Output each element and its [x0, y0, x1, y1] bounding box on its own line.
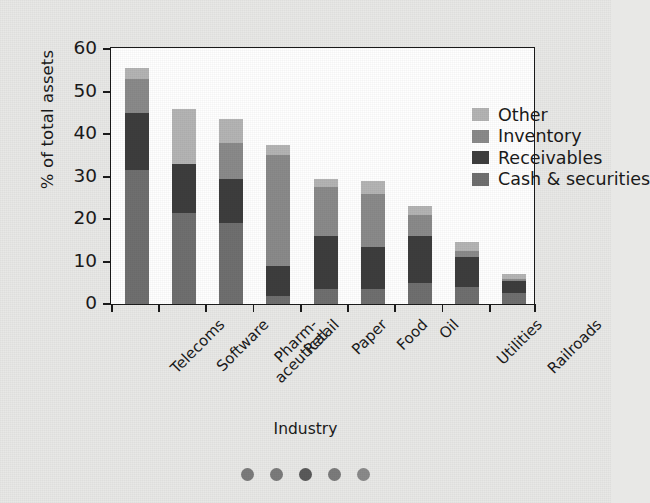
- bar-segment: [455, 251, 479, 257]
- decorative-dot: [357, 468, 370, 481]
- bar-segment: [125, 113, 149, 170]
- decorative-dot: [270, 468, 283, 481]
- bar-software: [172, 109, 196, 305]
- bar-segment: [314, 187, 338, 236]
- bar-segment: [125, 79, 149, 113]
- y-tick-mark: [103, 261, 111, 263]
- bar-segment: [502, 279, 526, 281]
- bar-segment: [172, 213, 196, 304]
- bar-segment: [172, 109, 196, 164]
- bar-segment: [502, 293, 526, 304]
- legend-swatch: [472, 151, 489, 164]
- y-tick-mark: [103, 176, 111, 178]
- chart-legend: OtherInventoryReceivablesCash & securiti…: [472, 104, 650, 190]
- x-category-label: Food: [394, 317, 430, 353]
- bar-segment: [314, 179, 338, 188]
- y-tick-mark: [103, 303, 111, 305]
- bar-segment: [502, 274, 526, 278]
- x-axis-tick: [111, 304, 113, 312]
- bar-segment: [219, 179, 243, 224]
- legend-swatch: [472, 130, 489, 143]
- legend-item-other: Other: [472, 104, 650, 126]
- y-tick-label: 50: [37, 80, 97, 101]
- y-tick-label: 0: [37, 292, 97, 313]
- x-axis-tick: [205, 304, 207, 312]
- bar-food: [361, 181, 385, 304]
- x-axis-tick: [534, 304, 536, 312]
- decorative-dots: [0, 468, 611, 481]
- bar-segment: [408, 206, 432, 215]
- bar-segment: [125, 68, 149, 79]
- y-tick-mark: [103, 133, 111, 135]
- y-tick-mark: [103, 91, 111, 93]
- bar-paper: [314, 179, 338, 304]
- bar-utilities: [455, 242, 479, 304]
- x-axis-tick: [253, 304, 255, 312]
- bar-segment: [361, 194, 385, 247]
- x-category-label-line1: Utilities: [493, 316, 546, 369]
- x-category-label-line1: Food: [393, 316, 431, 354]
- x-category-label-line1: Paper: [348, 316, 391, 359]
- y-tick-label: 60: [37, 37, 97, 58]
- bar-segment: [361, 289, 385, 304]
- legend-label: Cash & securities: [498, 169, 650, 189]
- decorative-dot: [328, 468, 341, 481]
- bar-segment: [361, 247, 385, 290]
- y-tick-mark: [103, 48, 111, 50]
- bar-segment: [219, 223, 243, 304]
- x-axis-tick: [158, 304, 160, 312]
- x-axis-tick: [442, 304, 444, 312]
- bar-segment: [455, 242, 479, 251]
- decorative-dot: [299, 468, 312, 481]
- legend-label: Receivables: [498, 148, 602, 168]
- legend-swatch: [472, 108, 489, 121]
- legend-swatch: [472, 173, 489, 186]
- x-category-label-line1: Oil: [435, 316, 462, 343]
- bar-segment: [455, 287, 479, 304]
- y-tick-label: 20: [37, 207, 97, 228]
- bar-segment: [172, 164, 196, 213]
- y-tick-label: 40: [37, 122, 97, 143]
- bar-railroads: [502, 274, 526, 304]
- bar-segment: [266, 145, 290, 156]
- x-category-label: Railroads: [546, 317, 606, 377]
- bar-segment: [408, 236, 432, 283]
- x-axis-tick: [489, 304, 491, 312]
- legend-item-receivables: Receivables: [472, 147, 650, 169]
- legend-label: Other: [498, 105, 548, 125]
- x-category-label: Utilities: [495, 317, 546, 368]
- bar-segment: [408, 283, 432, 304]
- bar-segment: [455, 257, 479, 287]
- legend-label: Inventory: [498, 126, 582, 146]
- x-axis-tick: [394, 304, 396, 312]
- bar-oil: [408, 206, 432, 304]
- x-axis-title: Industry: [0, 420, 611, 438]
- bar-segment: [314, 236, 338, 289]
- bar-segment: [266, 266, 290, 296]
- x-axis-tick: [300, 304, 302, 312]
- bar-telecoms: [125, 68, 149, 304]
- y-tick-mark: [103, 218, 111, 220]
- decorative-dot: [241, 468, 254, 481]
- bar-segment: [361, 181, 385, 194]
- bar-segment: [266, 155, 290, 266]
- bar-segment: [408, 215, 432, 236]
- x-category-label-line1: Railroads: [544, 316, 606, 378]
- x-category-label: Oil: [437, 317, 462, 342]
- legend-item-inventory: Inventory: [472, 126, 650, 148]
- x-axis-tick: [347, 304, 349, 312]
- bar-segment: [219, 143, 243, 179]
- bar-segment: [125, 170, 149, 304]
- bar-pharm-aceutical: [219, 119, 243, 304]
- bar-segment: [502, 281, 526, 294]
- y-tick-label: 30: [37, 165, 97, 186]
- bar-segment: [314, 289, 338, 304]
- bar-retail: [266, 145, 290, 304]
- x-category-label: Paper: [349, 317, 390, 358]
- bar-segment: [219, 119, 243, 142]
- bar-segment: [266, 296, 290, 305]
- plot-area: 0102030405060 OtherInventoryReceivablesC…: [110, 47, 535, 305]
- y-tick-label: 10: [37, 250, 97, 271]
- legend-item-cash-securities: Cash & securities: [472, 169, 650, 191]
